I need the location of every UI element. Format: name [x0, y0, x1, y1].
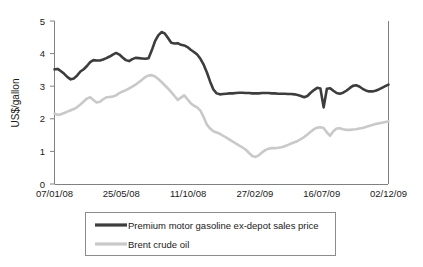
y-tick-label: 4: [40, 48, 45, 59]
y-axis-tick-marks: [50, 21, 55, 184]
x-axis-tick-labels: 07/01/0825/05/0811/10/0827/02/0916/07/09…: [36, 188, 407, 199]
x-tick-label: 02/12/09: [370, 188, 407, 199]
y-tick-label: 1: [40, 146, 45, 157]
legend-label-premium-motor-gasoline: Premium motor gasoline ex-depot sales pr…: [128, 220, 319, 231]
x-tick-label: 25/05/08: [103, 188, 140, 199]
line-chart: US$/gallon 012345 07/01/0825/05/0811/10/…: [0, 0, 423, 267]
y-axis-label-group: US$/gallon: [10, 79, 21, 128]
x-tick-label: 11/10/08: [170, 188, 206, 199]
x-tick-label: 07/01/08: [36, 188, 73, 199]
y-tick-label: 2: [40, 113, 45, 124]
legend-label-brent-crude-oil: Brent crude oil: [128, 239, 189, 250]
chart-container: US$/gallon 012345 07/01/0825/05/0811/10/…: [0, 0, 423, 267]
y-axis-label: US$/gallon: [10, 79, 21, 128]
y-tick-label: 5: [40, 16, 45, 27]
series-line-premium-motor-gasoline: [55, 32, 389, 107]
x-tick-label: 27/02/09: [236, 188, 273, 199]
series-line-brent-crude-oil: [55, 75, 389, 157]
y-axis-tick-labels: 012345: [40, 16, 45, 190]
x-tick-label: 16/07/09: [303, 188, 340, 199]
y-tick-label: 3: [40, 81, 45, 92]
